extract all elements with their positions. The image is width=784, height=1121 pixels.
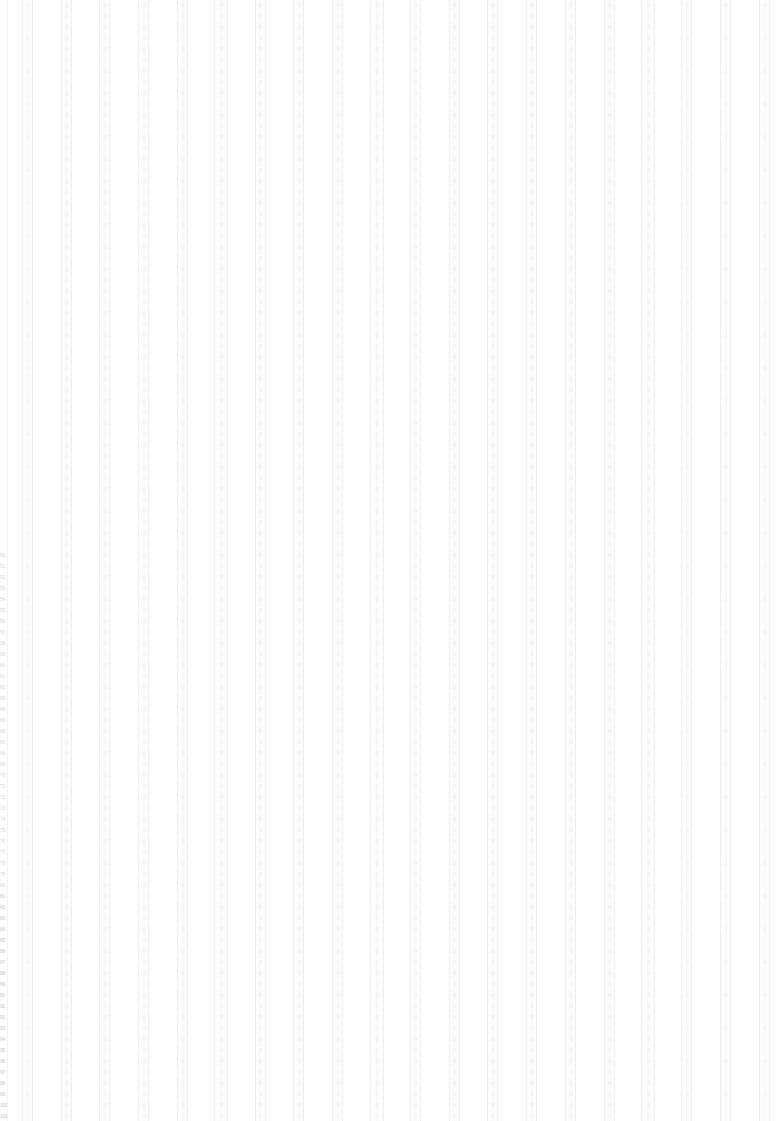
table-cell: 0	[178, 143, 187, 154]
table-cell: 0	[488, 253, 497, 264]
table-cell: 0	[566, 759, 575, 770]
row-index-cell	[0, 473, 7, 484]
table-cell: 0	[488, 759, 497, 770]
table-cell: 0	[100, 1045, 109, 1056]
table-cell: 0	[100, 528, 109, 539]
table-cell: 0	[566, 440, 575, 451]
table-cell: 0	[62, 352, 71, 363]
table-cell: 0	[488, 968, 497, 979]
table-cell: 0	[411, 66, 420, 77]
row-index-cell: 82	[0, 902, 7, 913]
table-cell: 0	[62, 341, 71, 352]
table-cell: 0	[215, 1078, 227, 1089]
table-cell: 0	[333, 935, 342, 946]
table-cell: 0	[215, 572, 227, 583]
table-cell: 0	[488, 638, 497, 649]
table-cell: 0	[682, 1001, 691, 1012]
table-column-c01: 0000000000000000000000000000000000000000…	[8, 0, 47, 1121]
table-cell: 0	[333, 308, 342, 319]
table-cell: 0	[411, 748, 420, 759]
table-cell: 0	[256, 165, 265, 176]
table-cell: 0	[642, 924, 654, 935]
table-cell: 0	[294, 726, 303, 737]
table-cell: 0	[721, 374, 730, 385]
table-cell: 0	[178, 979, 187, 990]
table-cell: 0	[100, 264, 109, 275]
table-cell: 0	[682, 451, 691, 462]
table-cell: 0	[139, 561, 148, 572]
table-cell: 0	[100, 429, 109, 440]
row-index-cell	[0, 143, 7, 154]
row-index-cell	[0, 264, 7, 275]
row-index-cell	[0, 187, 7, 198]
table-cell: 0	[682, 902, 691, 913]
table-cell: 0	[450, 1078, 459, 1089]
table-cell: 0	[215, 308, 227, 319]
table-cell: 0	[450, 253, 459, 264]
table-cell: 0	[566, 594, 575, 605]
table-cell: 0	[527, 814, 536, 825]
row-index-column: 5051525354555657585960616263646566676869…	[0, 0, 8, 1121]
table-cell: 0	[215, 385, 227, 396]
table-cell: 0	[605, 22, 614, 33]
row-index-cell: 72	[0, 792, 7, 803]
table-cell: 0	[215, 979, 227, 990]
table-cell: 0	[488, 616, 497, 627]
table-cell: 0	[333, 858, 342, 869]
table-cell: 0	[605, 550, 614, 561]
table-cell: 0	[178, 737, 187, 748]
table-cell: 0	[566, 242, 575, 253]
table-cell: 0	[294, 187, 303, 198]
table-cell: 0	[294, 605, 303, 616]
table-cell: 0	[682, 770, 691, 781]
table-cell: 0	[215, 935, 227, 946]
table-cell: 0	[411, 99, 420, 110]
table-cell: 0	[256, 693, 265, 704]
table-cell: 0	[371, 484, 383, 495]
table-cell: 0	[256, 187, 265, 198]
table-cell: 0	[566, 814, 575, 825]
row-index-cell	[0, 55, 7, 66]
table-cell: 0	[682, 44, 691, 55]
table-cell: 0	[100, 869, 109, 880]
table-cell: 0	[333, 792, 342, 803]
table-cell: 0	[333, 814, 342, 825]
table-cell: 0	[760, 165, 769, 176]
table-cell: 0	[23, 1056, 32, 1067]
table-cell: 0	[566, 924, 575, 935]
table-cell: 0	[642, 1034, 654, 1045]
table-cell: 0	[760, 781, 769, 792]
table-cell: 0	[450, 319, 459, 330]
table-cell: 0	[333, 242, 342, 253]
table-cell: 0	[215, 902, 227, 913]
table-cell: 0	[371, 847, 383, 858]
table-cell: 0	[527, 869, 536, 880]
table-cell: 0	[721, 583, 730, 594]
table-cell: 0	[566, 330, 575, 341]
table-cell: 0	[23, 121, 32, 132]
table-cell: 0	[178, 528, 187, 539]
table-cell: 0	[294, 880, 303, 891]
table-cell: 0	[178, 583, 187, 594]
table-cell: 0	[371, 638, 383, 649]
row-index-cell: 71	[0, 781, 7, 792]
table-cell: 0	[605, 759, 614, 770]
table-cell: 0	[333, 737, 342, 748]
table-cell: 0	[488, 121, 497, 132]
table-cell: 0	[62, 935, 71, 946]
table-cell: 0	[256, 66, 265, 77]
table-cell: 0	[333, 264, 342, 275]
table-cell: 0	[566, 319, 575, 330]
table-cell: 0	[139, 715, 148, 726]
table-cell: 0	[682, 638, 691, 649]
table-cell: 0	[760, 385, 769, 396]
table-cell: 0	[411, 176, 420, 187]
table-cell: 0	[23, 319, 32, 330]
table-cell: 0	[178, 154, 187, 165]
table-cell: 0	[294, 22, 303, 33]
table-cell: 0	[450, 946, 459, 957]
table-cell: 0	[721, 352, 730, 363]
table-cell: 0	[256, 891, 265, 902]
table-cell: 0	[62, 979, 71, 990]
table-cell: 0	[682, 121, 691, 132]
